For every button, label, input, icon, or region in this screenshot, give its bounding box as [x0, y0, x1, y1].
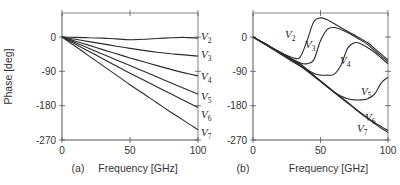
x-axis-title: Frequency [GHz]	[98, 162, 177, 174]
series-label-v7: V7	[357, 122, 368, 137]
series-label-v4: V4	[340, 54, 351, 69]
x-tick-label: 100	[190, 145, 207, 156]
y-tick-label: -270	[36, 135, 56, 146]
series-line-v6	[62, 37, 198, 108]
series-line-v2	[253, 18, 388, 60]
x-tick-label: 100	[380, 145, 397, 156]
series-line-v5	[62, 37, 198, 94]
series-label-v2: V2	[201, 30, 212, 45]
panel-a: 0-90-180-270050100Frequency [GHz](a)Phas…	[2, 10, 212, 174]
series-label-v3: V3	[305, 38, 316, 53]
series-label-v3: V3	[201, 48, 212, 63]
series-line-v3	[253, 27, 388, 63]
y-tick-label: -180	[36, 100, 56, 111]
x-tick-label: 50	[315, 145, 327, 156]
x-tick-label: 0	[59, 145, 65, 156]
panel-label: (a)	[72, 162, 85, 174]
series-label-v5: V5	[361, 85, 372, 100]
series-line-v4	[62, 37, 198, 76]
x-tick-label: 0	[250, 145, 256, 156]
series-label-v2: V2	[285, 28, 296, 43]
y-tick-label: -180	[227, 100, 247, 111]
series-line-v7	[62, 37, 198, 130]
x-tick-label: 50	[124, 145, 136, 156]
y-tick-label: -90	[233, 66, 248, 77]
series-label-v7: V7	[201, 126, 212, 141]
series-label-v5: V5	[201, 90, 212, 105]
x-axis-title: Frequency [GHz]	[289, 162, 368, 174]
y-tick-label: -90	[42, 66, 57, 77]
panel-label: (b)	[237, 162, 250, 174]
y-axis-title: Phase [deg]	[2, 48, 14, 104]
y-tick-label: 0	[50, 32, 56, 43]
series-label-v6: V6	[201, 108, 212, 123]
figure: 0-90-180-270050100Frequency [GHz](a)Phas…	[0, 0, 400, 185]
y-tick-label: -270	[227, 135, 247, 146]
series-line-v2	[62, 37, 198, 40]
panel-b: 0-90-180-270050100Frequency [GHz](b)V2V3…	[227, 10, 397, 174]
series-label-v4: V4	[201, 70, 212, 85]
series-line-v7	[253, 37, 388, 132]
y-tick-label: 0	[241, 32, 247, 43]
